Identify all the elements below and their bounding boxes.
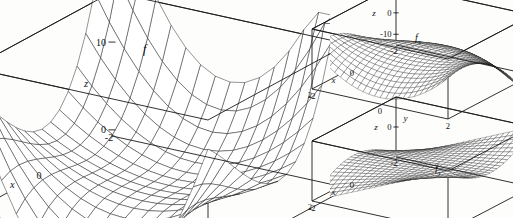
surface-label-fx-subscript: x	[417, 38, 421, 45]
z-tick-label: 0	[387, 8, 391, 18]
box-top-edge-left	[396, 0, 513, 15]
x-axis-label: x	[9, 179, 15, 190]
surface-label-fx: fx	[415, 32, 421, 45]
z-tick-label: -10	[380, 29, 391, 39]
panel-fx: 100-10z-202x-202yfx	[330, 0, 513, 108]
box-floor-edge-y	[312, 201, 448, 218]
surface-fy	[312, 127, 513, 201]
plot-fy: 0z-202x-202yfy	[330, 108, 513, 218]
x-axis-label: x	[331, 75, 336, 85]
z-tick-label: 10	[96, 37, 106, 48]
x-tick-label: 0	[37, 170, 42, 181]
surface-fx	[312, 33, 513, 99]
y-tick-label: -2	[308, 91, 315, 101]
surface-mesh	[312, 127, 513, 201]
x-tick-label: -2	[390, 46, 397, 56]
x-tick-label: 0	[350, 68, 354, 78]
z-axis-label: z	[373, 122, 378, 132]
x-tick-label: 0	[350, 180, 354, 190]
x-tick-label: -2	[390, 158, 397, 168]
box-floor-front-right	[448, 187, 513, 218]
plot-f: 010z-202x-202yf	[0, 0, 330, 218]
panel-fy: 0z-202x-202yfy	[330, 108, 513, 218]
z-axis-label: z	[371, 8, 376, 18]
plot-fx: 100-10z-202x-202yfx	[330, 0, 513, 108]
panel-f: 010z-202x-202yf	[0, 0, 330, 218]
y-tick-label: -2	[308, 203, 315, 213]
z-tick-label: 0	[387, 122, 391, 132]
figure-surface-plots: 010z-202x-202yf 100-10z-202x-202yfx 0z-2…	[0, 0, 513, 218]
x-tick-label: -2	[105, 132, 113, 143]
z-axis-label: z	[83, 78, 88, 89]
surface-mesh	[312, 33, 513, 99]
x-axis-label: x	[331, 187, 336, 197]
